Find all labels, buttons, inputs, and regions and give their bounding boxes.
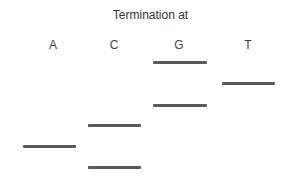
band-a [23, 145, 76, 148]
band-c [88, 124, 141, 127]
lane-label-a: A [49, 38, 57, 52]
diagram-title: Termination at [0, 8, 301, 22]
lane-label-t: T [244, 38, 251, 52]
band-t [222, 82, 275, 85]
band-c [88, 166, 141, 169]
lane-label-c: C [110, 38, 119, 52]
lane-label-g: G [174, 38, 183, 52]
band-g [153, 61, 207, 64]
band-g [153, 104, 207, 107]
